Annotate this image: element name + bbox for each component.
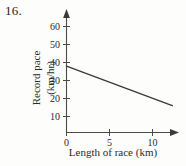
y-tick-label: 10	[50, 111, 60, 122]
x-tick-label: 5	[107, 137, 112, 148]
y-tick-label: 30	[50, 75, 60, 86]
plot-area: 60 50 40 30 20 10 0 5 10	[0, 0, 186, 166]
y-tick-label: 50	[50, 39, 60, 50]
y-tick-label: 20	[50, 93, 60, 104]
record-pace-line	[67, 66, 173, 106]
y-tick-label: 60	[50, 21, 60, 32]
x-tick-label: 10	[148, 137, 158, 148]
arrow-right-icon	[170, 129, 179, 136]
y-tick-label: 40	[50, 57, 60, 68]
arrow-up-icon	[63, 9, 70, 18]
x-tick-label: 0	[64, 137, 69, 148]
figure-16: 16. Record pace (km/hr) Length of race (…	[0, 0, 186, 166]
